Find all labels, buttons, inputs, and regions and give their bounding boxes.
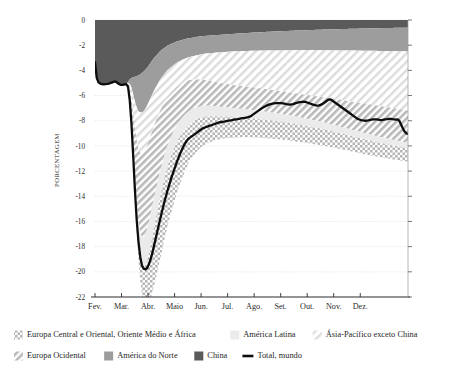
x-tick-label: Out. xyxy=(300,302,314,311)
legend-label: Europa Ocidental xyxy=(27,351,87,360)
y-tick-label: -20 xyxy=(75,268,85,276)
y-tick-label: -4 xyxy=(79,67,85,75)
y-tick-label: -12 xyxy=(75,168,85,176)
x-tick-label: Dez. xyxy=(353,302,368,311)
x-tick-label: Maio xyxy=(166,302,183,311)
x-tick-label: Set. xyxy=(274,302,287,311)
x-tick-label: Jun. xyxy=(194,302,207,311)
legend-label: China xyxy=(207,351,227,360)
y-tick-label: -2 xyxy=(79,42,85,50)
y-tick-label: -18 xyxy=(75,243,85,251)
x-tick-label: Abr. xyxy=(141,302,155,311)
x-tick-label: Jul. xyxy=(222,302,234,311)
legend-swatch xyxy=(14,331,23,340)
legend-swatch xyxy=(104,352,113,361)
legend-label: América Latina xyxy=(243,330,296,339)
x-tick-label: Ago. xyxy=(246,302,262,311)
chart-svg: 0-2-4-6-8-10-12-14-16-18-20-22 Fev.Mar.A… xyxy=(0,0,457,380)
legend-label: Total, mundo xyxy=(257,351,302,360)
y-tick-label: -14 xyxy=(75,193,85,201)
legend-label: Ásia-Pacífico exceto China xyxy=(326,329,418,339)
y-tick-label: 0 xyxy=(81,17,85,25)
y-tick-label: -16 xyxy=(75,218,85,226)
legend-swatch xyxy=(230,331,239,340)
legend-swatch xyxy=(313,331,322,340)
x-tick-label: Nov. xyxy=(326,302,342,311)
x-tick-label: Mar. xyxy=(114,302,129,311)
legend-label: Europa Central e Oriental, Oriente Médio… xyxy=(27,329,196,339)
legend-swatch xyxy=(14,352,23,361)
y-tick-label: -6 xyxy=(79,92,85,100)
y-tick-label: -10 xyxy=(75,143,85,151)
legend-label: América do Norte xyxy=(117,351,178,360)
y-tick-label: -8 xyxy=(79,117,85,125)
legend-swatch xyxy=(194,352,203,361)
x-tick-label: Fev. xyxy=(88,302,102,311)
stacked-area-chart: 0-2-4-6-8-10-12-14-16-18-20-22 Fev.Mar.A… xyxy=(0,0,457,380)
y-axis-title: PORCENTAGEM xyxy=(53,133,60,187)
y-tick-label: -22 xyxy=(75,294,85,302)
